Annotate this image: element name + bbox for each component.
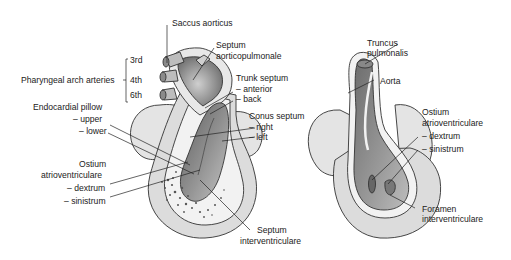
label-conus-septum: Conus septum	[249, 111, 304, 121]
label-foramen-line2: interventriculare	[422, 214, 483, 224]
label-truncus-line1: Truncus	[367, 38, 398, 48]
label-conus-left: – left	[249, 132, 268, 142]
label-endocardial-upper: – upper	[73, 114, 102, 124]
label-ostium-right-dextrum: – dextrum	[422, 131, 460, 141]
heart-development-diagram: Saccus aorticus Septum aorticopulmonale …	[0, 0, 511, 260]
truncus-opening	[357, 60, 373, 68]
label-conus-right: – right	[249, 122, 273, 132]
label-aorta: Aorta	[380, 76, 401, 86]
label-arch-4th: 4th	[130, 75, 142, 85]
label-saccus-aorticus: Saccus aorticus	[172, 18, 233, 28]
label-septum-ap-line1: Septum	[216, 40, 246, 50]
arch-artery-4th-opening	[160, 72, 166, 82]
arch-artery-6th-opening	[160, 90, 166, 100]
label-ostium-line1: Ostium	[79, 159, 106, 169]
label-endocardial-pillow: Endocardial pillow	[33, 102, 103, 112]
arch-artery-3rd-opening	[163, 57, 169, 67]
label-ostium-right-line1: Ostium	[422, 107, 449, 117]
label-foramen-line1: Foramen	[422, 204, 457, 214]
label-truncus-line2: pulmonalis	[367, 48, 408, 58]
right-heart-drawing	[308, 52, 440, 238]
label-pharyngeal-arch-arteries: Pharyngeal arch arteries	[21, 75, 115, 85]
label-ostium-dextrum: – dextrum	[67, 183, 105, 193]
label-ostium-right-sinistrum: – sinistrum	[422, 144, 464, 154]
label-ostium-right-line2: atrioventriculare	[422, 118, 483, 128]
label-trunk-back: – back	[236, 94, 262, 104]
label-trunk-septum: Trunk septum	[236, 73, 288, 83]
label-trunk-anterior: – anterior	[236, 84, 272, 94]
label-septum-iv-line1: Septum	[257, 225, 287, 235]
label-arch-3rd: 3rd	[130, 55, 143, 65]
label-septum-iv-line2: interventriculare	[240, 236, 301, 246]
label-ostium-sinistrum: – sinistrum	[64, 196, 106, 206]
label-ostium-line2: atrioventriculare	[41, 170, 102, 180]
label-endocardial-lower: – lower	[79, 126, 107, 136]
label-arch-6th: 6th	[130, 90, 142, 100]
label-septum-ap-line2: aorticopulmonale	[216, 51, 282, 61]
